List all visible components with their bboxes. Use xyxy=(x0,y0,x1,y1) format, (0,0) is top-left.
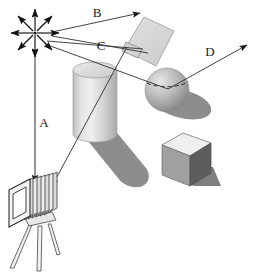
tilted-plane-object xyxy=(122,17,174,66)
label-b: B xyxy=(93,5,102,20)
label-a: A xyxy=(39,115,49,130)
label-d: D xyxy=(205,44,214,59)
sphere-object xyxy=(145,68,189,112)
cylinder-top xyxy=(73,62,117,78)
label-c: C xyxy=(97,38,106,53)
sphere-body xyxy=(145,68,189,112)
light-source-center xyxy=(33,31,36,34)
light-ray-nw xyxy=(18,16,33,31)
light-ray-sw xyxy=(18,35,33,50)
tripod-leg-center xyxy=(37,226,42,271)
plane-face xyxy=(124,17,174,66)
light-ray-ne xyxy=(37,16,52,31)
bellows-camera-object xyxy=(9,172,60,271)
tripod-leg-left xyxy=(10,225,32,268)
figure-root: A B C D xyxy=(0,0,261,273)
light-source-star xyxy=(11,9,59,57)
tripod-leg-right xyxy=(48,224,60,255)
scene-diagram: A B C D xyxy=(0,0,261,273)
cylinder-object xyxy=(73,62,117,142)
light-ray-se xyxy=(37,35,52,50)
